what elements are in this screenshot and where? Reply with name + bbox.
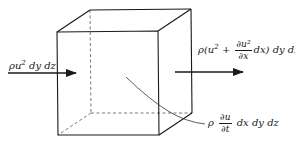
storage-label: ρ ∂u∂t dx dy dz — [208, 113, 279, 134]
outflow-label: ρ(u2 + ∂u²∂xdx) dy dz — [198, 40, 295, 61]
cube-visible-edges — [57, 9, 192, 135]
storage-leader-curve — [126, 77, 205, 124]
cube-hidden-edges — [58, 10, 192, 135]
inflow-label: ρu2 dy dz — [9, 60, 56, 71]
